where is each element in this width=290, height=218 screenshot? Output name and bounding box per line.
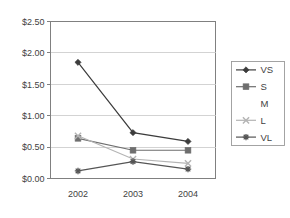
- marker-square: [243, 84, 249, 90]
- marker-square: [185, 147, 191, 153]
- marker-asterisk: [130, 158, 136, 164]
- x-axis-tick-label: 2002: [68, 189, 88, 199]
- chart-canvas: $0.00$0.50$1.00$1.50$2.00$2.502002200320…: [0, 0, 290, 218]
- legend-label: S: [261, 81, 267, 92]
- plot-area: [51, 22, 216, 179]
- legend-label: VL: [261, 132, 273, 143]
- y-axis-tick-label: $1.00: [22, 111, 45, 121]
- y-axis-tick-label: $0.00: [22, 174, 45, 184]
- y-axis-tick-label: $2.50: [22, 17, 45, 27]
- marker-asterisk: [185, 166, 191, 172]
- legend-label: VS: [261, 64, 274, 75]
- y-axis-tick-label: $0.50: [22, 142, 45, 152]
- y-axis-tick-label: $2.00: [22, 48, 45, 58]
- line-chart: $0.00$0.50$1.00$1.50$2.00$2.502002200320…: [0, 0, 290, 218]
- x-axis-labels: 200220032004: [68, 189, 198, 199]
- legend-label: M: [261, 98, 269, 109]
- marker-asterisk: [75, 168, 81, 174]
- legend-label: L: [261, 115, 266, 126]
- marker-asterisk: [243, 134, 249, 140]
- y-axis-labels: $0.00$0.50$1.00$1.50$2.00$2.50: [22, 17, 45, 184]
- legend: VSSMLVL: [232, 62, 285, 146]
- x-axis-tick-label: 2004: [178, 189, 198, 199]
- marker-square: [130, 147, 136, 153]
- y-axis-tick-label: $1.50: [22, 80, 45, 90]
- x-axis-tick-label: 2003: [123, 189, 143, 199]
- legend-item-m[interactable]: M: [261, 98, 269, 109]
- legend-box: [232, 62, 285, 146]
